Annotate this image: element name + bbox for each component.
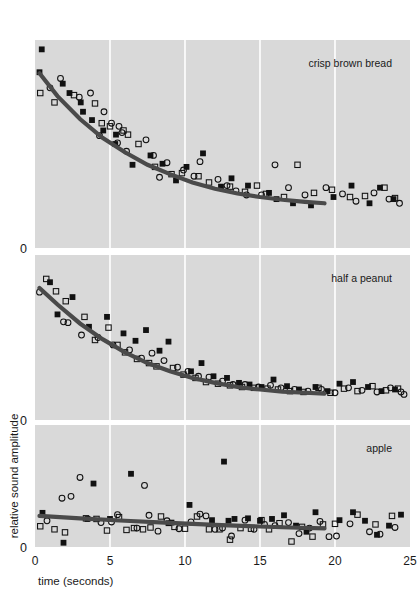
marker-filled-square (121, 330, 127, 336)
marker-filled-square (143, 327, 149, 333)
marker-filled-square (39, 46, 45, 52)
marker-filled-square (245, 183, 251, 189)
marker-filled-square (221, 459, 227, 465)
marker-filled-square (47, 279, 53, 285)
marker-filled-square (349, 183, 355, 189)
x-axis-title: time (seconds) (38, 575, 114, 587)
panel-half-a-peanut: half a peanut (35, 255, 410, 420)
marker-filled-square (61, 540, 67, 546)
marker-filled-square (367, 200, 373, 206)
panel-apple: apple (35, 425, 410, 547)
panel-title-1: half a peanut (331, 272, 392, 284)
marker-filled-square (55, 312, 61, 318)
marker-filled-square (133, 338, 139, 344)
marker-filled-square (100, 128, 106, 134)
chart-figure: crisp brown breadhalf a peanutapple 0000… (0, 0, 418, 602)
x-tick-label-25: 25 (403, 554, 417, 568)
panels-layer: crisp brown breadhalf a peanutapple (35, 40, 410, 547)
panel-title-0: crisp brown bread (309, 57, 393, 69)
marker-filled-square (269, 516, 275, 522)
marker-filled-square (226, 518, 232, 524)
marker-filled-square (113, 132, 119, 138)
marker-filled-square (271, 377, 277, 383)
marker-filled-square (104, 314, 110, 320)
chart-svg: crisp brown breadhalf a peanutapple 0000… (0, 0, 418, 602)
panel-title-2: apple (366, 442, 392, 454)
panel-crisp-brown-bread: crisp brown bread (35, 40, 410, 248)
marker-filled-square (229, 175, 235, 181)
marker-filled-square (313, 509, 319, 515)
marker-filled-square (331, 194, 337, 200)
y-zero-label-2: 0 (20, 541, 27, 555)
x-tick-label-5: 5 (107, 554, 114, 568)
marker-filled-square (200, 150, 206, 156)
marker-filled-square (91, 481, 97, 487)
panel-background (35, 40, 410, 248)
x-tick-label-0: 0 (32, 554, 39, 568)
marker-filled-square (398, 512, 404, 518)
marker-filled-square (130, 162, 136, 168)
marker-filled-square (89, 117, 95, 123)
marker-filled-square (281, 512, 287, 518)
marker-filled-square (386, 523, 392, 529)
y-zero-label-1: 0 (20, 414, 27, 428)
x-tick-label-20: 20 (328, 554, 342, 568)
marker-filled-square (80, 109, 86, 115)
y-zero-label-0: 0 (20, 242, 27, 256)
marker-filled-square (362, 518, 368, 524)
y-axis-title: relative sound amplitude (8, 414, 20, 539)
marker-filled-square (70, 294, 76, 300)
marker-filled-square (199, 360, 205, 366)
marker-filled-square (128, 471, 134, 477)
x-tick-label-15: 15 (253, 554, 267, 568)
x-tick-label-10: 10 (178, 554, 192, 568)
marker-filled-square (166, 339, 172, 345)
marker-filled-square (232, 516, 238, 522)
marker-filled-square (209, 517, 215, 523)
marker-filled-square (350, 379, 356, 385)
marker-filled-square (187, 502, 193, 508)
marker-filled-square (157, 348, 163, 354)
